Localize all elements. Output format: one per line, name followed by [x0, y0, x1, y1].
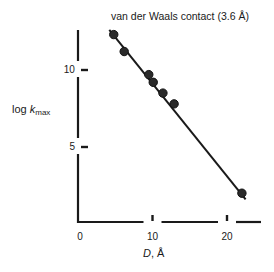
axes: [77, 30, 261, 223]
data-point: [170, 100, 178, 108]
x-tick-label: 10: [147, 231, 158, 242]
fit-line: [109, 30, 245, 199]
chart-title: van der Waals contact (3.6 Å): [111, 10, 249, 22]
data-point: [159, 89, 167, 97]
y-tick-label: 5: [69, 141, 75, 152]
data-point: [238, 189, 246, 197]
y-tick-label: 10: [64, 64, 75, 75]
x-axis-label: D, Å: [143, 247, 164, 259]
x-axis-label-var: D: [143, 247, 151, 259]
y-axis-label-prefix: log: [12, 103, 30, 115]
data-point: [110, 30, 118, 38]
data-point: [120, 47, 128, 55]
regression-line: [109, 30, 245, 199]
data-point: [149, 78, 157, 86]
y-axis-label: log kmax: [12, 103, 50, 117]
y-axis-label-sub: max: [35, 108, 50, 117]
x-tick-label: 0: [77, 231, 83, 242]
x-tick-label: 20: [221, 231, 232, 242]
x-axis-label-unit: , Å: [151, 247, 164, 259]
data-point: [145, 70, 153, 78]
